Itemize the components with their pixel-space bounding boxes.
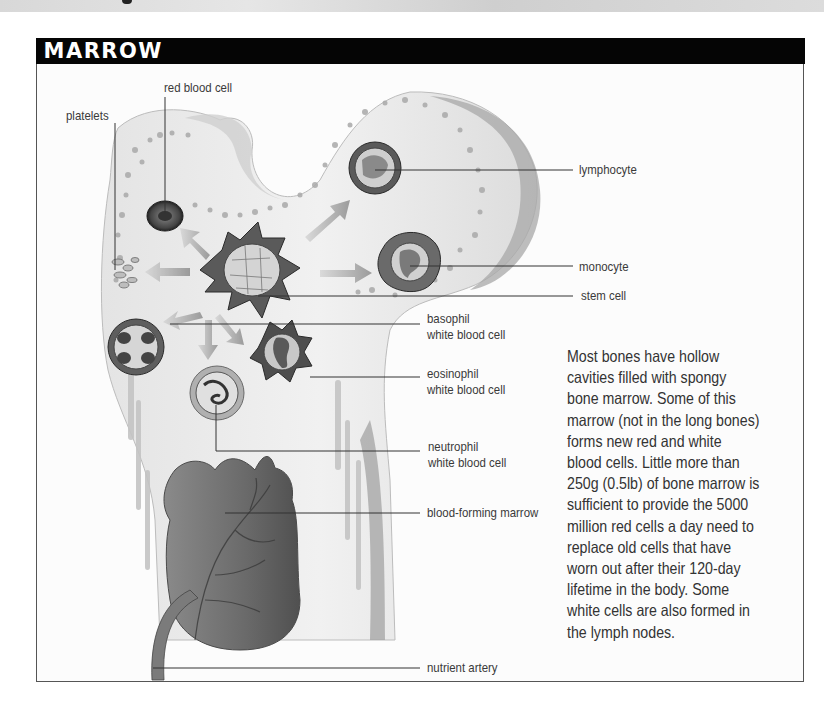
label-basophil-line1: basophil (427, 311, 505, 327)
label-eosinophil-line1: eosinophil (427, 366, 505, 382)
label-red-blood-cell: red blood cell (164, 80, 232, 96)
label-basophil-line2: white blood cell (427, 327, 505, 343)
description-line: lifetime in the body. Some (567, 579, 765, 600)
blood-forming-marrow-shape (164, 456, 300, 650)
label-stem-cell: stem cell (581, 288, 626, 304)
label-eosinophil-line2: white blood cell (427, 382, 505, 398)
label-platelets: platelets (66, 108, 109, 124)
description-line: replace old cells that have (567, 537, 765, 558)
description-line: marrow (not in the long bones) (567, 410, 765, 431)
label-basophil: basophil white blood cell (427, 311, 505, 343)
label-neutrophil-line2: white blood cell (428, 455, 506, 471)
label-eosinophil: eosinophil white blood cell (427, 366, 505, 398)
label-lymphocyte: lymphocyte (579, 162, 637, 178)
description-line: million red cells a day need to (567, 516, 765, 537)
label-neutrophil: neutrophil white blood cell (428, 439, 506, 471)
description-line: bone marrow. Some of this (567, 388, 765, 409)
neutrophil-shape (190, 366, 244, 420)
description-line: sufficient to provide the 5000 (567, 494, 765, 515)
description-paragraph: Most bones have hollow cavities filled w… (567, 346, 765, 643)
description-line: the lymph nodes. (567, 622, 765, 643)
description-line: Most bones have hollow (567, 346, 765, 367)
label-neutrophil-line1: neutrophil (428, 439, 506, 455)
description-line: forms new red and white (567, 431, 765, 452)
lymphocyte-shape (349, 142, 401, 194)
description-line: white cells are also formed in (567, 600, 765, 621)
description-line: blood cells. Little more than (567, 452, 765, 473)
label-monocyte: monocyte (579, 259, 629, 275)
description-line: 250g (0.5lb) of bone marrow is (567, 473, 765, 494)
monocyte-shape (378, 232, 440, 291)
label-nutrient-artery: nutrient artery (427, 660, 498, 676)
label-blood-forming-marrow: blood-forming marrow (427, 505, 538, 521)
basophil-shape (108, 319, 164, 375)
description-line: worn out after their 120-day (567, 558, 765, 579)
description-line: cavities filled with spongy (567, 367, 765, 388)
